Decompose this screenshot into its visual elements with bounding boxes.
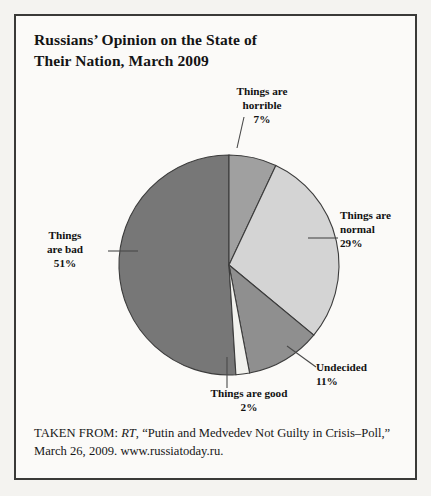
pie-label-bad-percent: 51% [54, 257, 76, 269]
pie-label-bad: Things are bad 51% [22, 228, 108, 270]
pie-label-normal-line2: normal [340, 223, 375, 235]
pie-label-horrible-line2: horrible [242, 99, 281, 111]
pie-label-normal-line1: Things are [340, 209, 391, 221]
pie-label-horrible-percent: 7% [254, 113, 271, 125]
pie-label-normal-percent: 29% [340, 237, 362, 249]
pie-label-good: Things are good 2% [184, 386, 314, 414]
figure-frame: Russians’ Opinion on the State of Their … [14, 14, 417, 480]
pie-label-normal: Things are normal 29% [340, 208, 424, 250]
source-publication: RT [121, 426, 136, 440]
pie-label-bad-line2: are bad [47, 243, 83, 255]
source-citation: TAKEN FROM: RT, “Putin and Medvedev Not … [34, 424, 402, 461]
pie-label-undecided: Undecided 11% [316, 360, 408, 388]
pie-chart: Things are horrible 7% Things are normal… [16, 16, 419, 482]
pie-label-horrible-line1: Things are [236, 85, 287, 97]
pie-slice-bad[interactable] [119, 155, 236, 375]
pie-label-good-percent: 2% [241, 401, 258, 413]
pie-label-horrible: Things are horrible 7% [202, 84, 322, 126]
pie-label-undecided-percent: 11% [316, 375, 338, 387]
pie-label-bad-line1: Things [49, 229, 82, 241]
source-prefix: TAKEN FROM: [34, 426, 121, 440]
pie-label-good-line1: Things are good [211, 387, 288, 399]
pie-label-undecided-line1: Undecided [316, 361, 367, 373]
